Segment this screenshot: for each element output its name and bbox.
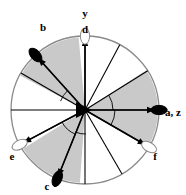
label-b: b bbox=[40, 21, 46, 33]
label-e: e bbox=[10, 150, 15, 162]
figure-canvas: ydba, zecf bbox=[0, 0, 186, 195]
label-c: c bbox=[45, 180, 50, 192]
label-f: f bbox=[153, 150, 157, 162]
label-y: y bbox=[82, 7, 88, 19]
label-d: d bbox=[82, 23, 88, 35]
wedge-lower-left bbox=[23, 110, 85, 183]
stereographic-projection-diagram: ydba, zecf bbox=[0, 0, 186, 195]
label-az: a, z bbox=[165, 106, 181, 118]
